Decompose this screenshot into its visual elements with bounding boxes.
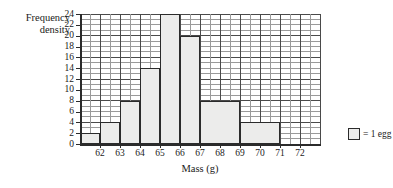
y-axis-tick-mark <box>76 101 80 102</box>
y-axis-tick-label: 0 <box>52 140 74 150</box>
y-axis-tick-label: 22 <box>52 20 74 30</box>
histogram-bar <box>160 14 180 144</box>
y-axis-tick-mark <box>76 47 80 48</box>
y-axis-tick-label: 8 <box>52 96 74 106</box>
y-axis-tick-mark <box>76 25 80 26</box>
y-axis-tick-label: 10 <box>52 85 74 95</box>
y-axis-tick-mark <box>76 36 80 37</box>
x-axis-tick-mark <box>160 144 161 148</box>
y-axis-tick-label: 18 <box>52 42 74 52</box>
y-axis-tick-mark <box>76 133 80 134</box>
x-axis-tick-mark <box>300 144 301 148</box>
x-axis-title: Mass (g) <box>140 163 260 174</box>
legend-entry-label: = 1 egg <box>363 129 392 139</box>
y-axis-tick-mark <box>76 122 80 123</box>
y-axis-tick-label: 6 <box>52 107 74 117</box>
y-axis-tick-mark <box>76 112 80 113</box>
histogram-bar <box>120 101 140 144</box>
x-axis-tick-mark <box>240 144 241 148</box>
legend-swatch-icon <box>348 128 360 140</box>
y-axis-tick-mark <box>76 68 80 69</box>
y-axis-tick-label: 16 <box>52 53 74 63</box>
y-axis-tick-label: 24 <box>52 10 74 20</box>
plot-area <box>80 14 320 144</box>
x-axis-tick-mark <box>120 144 121 148</box>
x-axis-tick-label: 72 <box>288 149 312 159</box>
y-axis-tick-label: 4 <box>52 118 74 128</box>
y-axis-tick-mark <box>76 144 80 145</box>
y-axis-tick-label: 2 <box>52 129 74 139</box>
histogram-figure: Frequency density 024681012141618202224 … <box>0 0 393 188</box>
y-axis-tick-label: 12 <box>52 75 74 85</box>
x-axis-tick-mark <box>200 144 201 148</box>
histogram-bar <box>240 122 280 144</box>
histogram-bar <box>200 101 240 144</box>
histogram-bar <box>180 36 200 144</box>
x-axis-tick-mark <box>220 144 221 148</box>
y-axis-tick-mark <box>76 57 80 58</box>
bar-layer <box>80 14 320 144</box>
x-axis-tick-mark <box>180 144 181 148</box>
y-axis-tick-mark <box>76 79 80 80</box>
x-axis-tick-mark <box>100 144 101 148</box>
y-axis-tick-mark <box>76 90 80 91</box>
x-axis-tick-mark <box>280 144 281 148</box>
y-axis-tick-label: 14 <box>52 64 74 74</box>
legend: = 1 egg <box>348 128 392 140</box>
x-axis-tick-mark <box>140 144 141 148</box>
histogram-bar <box>140 68 160 144</box>
histogram-bar <box>100 122 120 144</box>
y-axis-tick-label: 20 <box>52 31 74 41</box>
x-axis-tick-mark <box>260 144 261 148</box>
histogram-bar <box>80 133 100 144</box>
y-axis-tick-mark <box>76 14 80 15</box>
y-axis-line <box>80 14 82 145</box>
